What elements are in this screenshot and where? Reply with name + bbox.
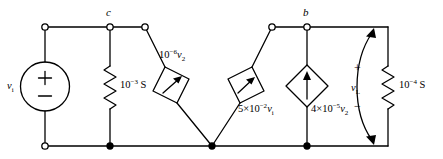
ds1-exponent: −6 (170, 48, 177, 56)
ds3-coefficient: 4×10 (311, 103, 333, 114)
circuit-diagram: c b vi 10−3 S 10−6v2 5×10−2vi 4×10−5v2 +… (0, 0, 443, 159)
output-minus-sign: − (354, 100, 361, 112)
source-label: vi (7, 81, 14, 92)
terminal-top-left (42, 24, 48, 30)
conductance-left-unit: S (138, 79, 146, 90)
conductance-left-label: 10−3 S (120, 80, 146, 91)
ds2-exponent: −2 (260, 102, 267, 110)
node-label-c: c (106, 7, 111, 18)
junction-bottom-b (304, 143, 310, 149)
dependent-source-3-arrow-head (303, 71, 311, 80)
source-label-sub: i (12, 86, 14, 94)
conductance-right-mantissa: 10 (399, 79, 410, 90)
dependent-source-2-arrow-head (246, 77, 255, 85)
wire-ds2-top (252, 27, 272, 67)
output-voltage-label: vL (351, 83, 360, 94)
dependent-source-2-label: 5×10−2vi (238, 104, 274, 115)
ds1-variable-sub: 2 (182, 55, 186, 63)
resistor-zigzag-right (382, 66, 394, 109)
terminal-node-c-top (107, 24, 113, 30)
terminal-ds1-top (142, 24, 148, 30)
voltage-source-circle (21, 62, 70, 111)
junction-bottom-center (209, 143, 215, 149)
junction-bottom-c (107, 143, 113, 149)
ds1-coefficient: 10 (159, 49, 170, 60)
output-voltage-arrow-head-bottom (366, 135, 376, 145)
conductance-right-unit: S (417, 79, 425, 90)
wire-ds2-bottom (212, 103, 240, 146)
conductance-left-exponent: −3 (131, 78, 138, 86)
wire-ds1-bottom (177, 103, 212, 146)
dependent-source-3-label: 4×10−5v2 (311, 104, 348, 115)
conductance-left-mantissa: 10 (120, 79, 131, 90)
terminal-bottom-left (42, 143, 48, 149)
conductance-right-label: 10−4 S (399, 80, 425, 91)
resistor-zigzag-left (104, 66, 116, 109)
ds2-variable-sub: i (272, 109, 274, 117)
wire-ds1-top (145, 27, 165, 67)
dependent-source-1-diamond (153, 67, 189, 103)
ds3-variable-sub: 2 (345, 109, 349, 117)
output-voltage-sub: L (356, 88, 360, 96)
circuit-schematic-canvas (0, 0, 443, 159)
terminal-ds2-top (269, 24, 275, 30)
node-label-b: b (303, 7, 309, 18)
output-plus-sign: + (354, 62, 361, 74)
terminal-node-b-top (304, 24, 310, 30)
ds3-exponent: −5 (333, 102, 340, 110)
conductance-right-exponent: −4 (410, 78, 417, 86)
dependent-source-1-label: 10−6v2 (159, 50, 185, 61)
output-voltage-arrow-head-top (366, 28, 376, 38)
ds2-coefficient: 5×10 (238, 103, 260, 114)
